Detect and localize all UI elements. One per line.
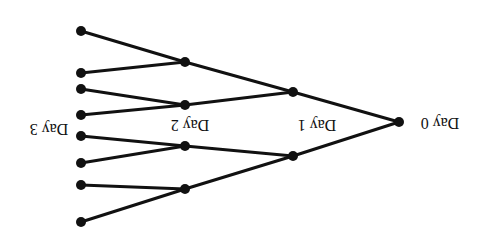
label-day2: Day 2 bbox=[171, 116, 210, 134]
tree-edge bbox=[81, 62, 185, 73]
tree-node-d2a bbox=[180, 57, 190, 67]
tree-edge bbox=[81, 136, 185, 146]
tree-node-d2c bbox=[180, 141, 190, 151]
tree-node-d3e bbox=[76, 131, 86, 141]
tree-edge bbox=[185, 92, 293, 105]
tree-node-d2d bbox=[180, 184, 190, 194]
tree-node-d2b bbox=[180, 100, 190, 110]
tree-node-d3f bbox=[76, 158, 86, 168]
label-day3: Day 3 bbox=[30, 120, 69, 138]
tree-edge bbox=[81, 31, 185, 62]
tree-node-d1b bbox=[288, 151, 298, 161]
tree-node-d3a bbox=[76, 26, 86, 36]
tree-node-d1a bbox=[288, 87, 298, 97]
day-labels: Day 0Day 1Day 2Day 3 bbox=[30, 114, 460, 138]
tree-node-d3g bbox=[76, 180, 86, 190]
tree-edges bbox=[81, 31, 399, 222]
tree-edge bbox=[185, 156, 293, 189]
tree-node-d3d bbox=[76, 110, 86, 120]
tree-node-d0 bbox=[394, 117, 404, 127]
tree-edge bbox=[81, 189, 185, 222]
label-day1: Day 1 bbox=[298, 116, 337, 134]
tree-node-d3h bbox=[76, 217, 86, 227]
binomial-tree-diagram: Day 0Day 1Day 2Day 3 bbox=[0, 0, 495, 236]
tree-node-d3b bbox=[76, 68, 86, 78]
tree-edge bbox=[185, 146, 293, 156]
label-day0: Day 0 bbox=[421, 114, 460, 132]
tree-node-d3c bbox=[76, 84, 86, 94]
tree-edge bbox=[81, 89, 185, 105]
tree-edge bbox=[81, 105, 185, 115]
tree-edge bbox=[81, 146, 185, 163]
tree-edge bbox=[81, 185, 185, 189]
tree-edge bbox=[185, 62, 293, 92]
tree-nodes bbox=[76, 26, 404, 227]
